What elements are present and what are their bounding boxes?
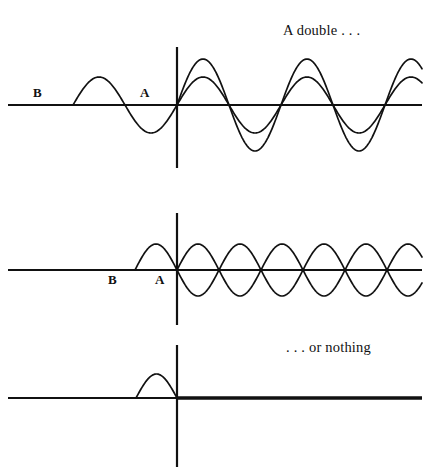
panel2-incoming-half-hump bbox=[135, 244, 177, 270]
panel2-lens-train-lower bbox=[177, 270, 422, 296]
panel-standing: B A bbox=[8, 213, 422, 325]
panel2-label-b: B bbox=[108, 272, 117, 287]
panel1-label-a: A bbox=[140, 85, 150, 100]
panel-superposition: B A A double . . . bbox=[8, 22, 422, 168]
panel2-lens-train-upper bbox=[177, 244, 422, 270]
panel1-label-b: B bbox=[33, 85, 42, 100]
caption-a-double: A double . . . bbox=[283, 22, 360, 38]
panel2-label-a: A bbox=[155, 272, 165, 287]
panel3-incoming-half-hump bbox=[136, 374, 177, 398]
wave-superposition-figure: B A A double . . . B A . . . or nothing bbox=[0, 0, 436, 475]
caption-or-nothing: . . . or nothing bbox=[286, 339, 371, 355]
panel-cancellation: . . . or nothing bbox=[8, 339, 422, 467]
